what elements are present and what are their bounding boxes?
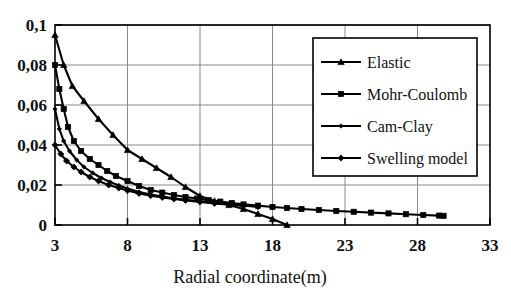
data-point-marker xyxy=(403,212,408,217)
x-tick-label: 33 xyxy=(482,236,499,255)
data-point-marker xyxy=(441,213,446,218)
x-axis-title: Radial coordinate(m) xyxy=(173,267,326,288)
data-point-marker xyxy=(57,86,62,91)
x-tick-label: 3 xyxy=(51,236,60,255)
data-point-marker xyxy=(79,148,84,153)
x-tick-label: 28 xyxy=(409,236,426,255)
chart-canvas: 00,020,040,060,080,1 381318232833 Elasti… xyxy=(0,0,511,295)
data-point-marker xyxy=(299,206,304,211)
data-point-marker xyxy=(148,187,153,192)
data-point-marker xyxy=(386,211,391,216)
data-point-marker xyxy=(96,162,101,167)
y-axis-tick-labels: 00,020,040,060,080,1 xyxy=(17,16,47,235)
x-tick-label: 18 xyxy=(264,236,281,255)
chart-figure: 00,020,040,060,080,1 381318232833 Elasti… xyxy=(0,0,511,295)
series-cam-clay xyxy=(53,107,260,209)
data-point-marker xyxy=(351,209,356,214)
data-point-marker xyxy=(87,156,92,161)
data-point-marker xyxy=(316,207,321,212)
data-point-marker xyxy=(61,106,66,111)
legend-label: Elastic xyxy=(367,54,411,71)
x-tick-label: 13 xyxy=(192,236,209,255)
y-tick-label: 0,02 xyxy=(17,176,47,195)
data-point-marker xyxy=(334,208,339,213)
y-tick-label: 0,1 xyxy=(26,16,47,35)
x-tick-label: 23 xyxy=(337,236,354,255)
data-point-marker xyxy=(71,138,76,143)
data-point-marker xyxy=(338,91,343,96)
data-point-marker xyxy=(284,205,289,210)
data-point-marker xyxy=(52,32,58,38)
data-point-marker xyxy=(105,168,110,173)
y-tick-label: 0,08 xyxy=(17,56,47,75)
data-point-marker xyxy=(137,183,142,188)
y-tick-label: 0,06 xyxy=(17,96,47,115)
chart-legend: ElasticMohr-CoulombCam-ClaySwelling mode… xyxy=(313,38,477,176)
legend-label: Mohr-Coulomb xyxy=(367,86,467,103)
legend-label: Cam-Clay xyxy=(367,118,433,136)
data-point-marker xyxy=(113,173,118,178)
data-point-marker xyxy=(421,212,426,217)
data-point-marker xyxy=(69,83,75,89)
legend-label: Swelling model xyxy=(367,150,468,168)
y-tick-label: 0 xyxy=(39,216,48,235)
y-tick-label: 0,04 xyxy=(17,136,47,155)
data-point-marker xyxy=(65,124,70,129)
data-point-marker xyxy=(53,107,57,111)
x-tick-label: 8 xyxy=(123,236,132,255)
data-point-marker xyxy=(270,204,275,209)
data-point-marker xyxy=(369,210,374,215)
x-axis-tick-labels: 381318232833 xyxy=(51,236,499,255)
data-point-marker xyxy=(125,178,130,183)
data-point-marker xyxy=(52,62,57,67)
